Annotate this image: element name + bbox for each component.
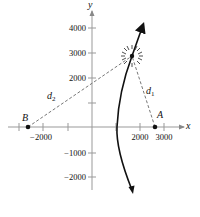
- y-tick-label: 2000: [69, 74, 86, 83]
- curve-arrow-bottom-icon: [129, 186, 135, 195]
- y-axis-label: y: [88, 0, 92, 10]
- y-tick-label: −1000: [64, 149, 86, 158]
- x-tick-label: 3000: [156, 133, 173, 142]
- object-point: [130, 54, 134, 58]
- y-tick-label: −2000: [64, 173, 86, 182]
- hyperbola-diagram: y x −2000 2000 3000 4000 3000 2000 −1000…: [0, 0, 200, 217]
- point-b-label: B: [22, 113, 28, 123]
- y-tick-label: 4000: [69, 24, 86, 33]
- d1-label-sub: 1: [151, 90, 155, 98]
- point-a-label: A: [157, 110, 163, 120]
- segment-d2: [28, 56, 132, 127]
- point-a: [153, 125, 158, 130]
- diagram-canvas: [0, 0, 200, 217]
- d2-label: d2: [47, 91, 56, 103]
- hyperbola-curve: [117, 25, 143, 190]
- x-axis-label: x: [186, 121, 190, 131]
- x-tick-label: 2000: [132, 133, 149, 142]
- y-tick-label: 3000: [69, 49, 86, 58]
- x-tick-label: −2000: [30, 133, 52, 142]
- d2-label-sub: 2: [52, 95, 56, 103]
- d1-label: d1: [146, 86, 155, 98]
- point-b: [26, 125, 31, 130]
